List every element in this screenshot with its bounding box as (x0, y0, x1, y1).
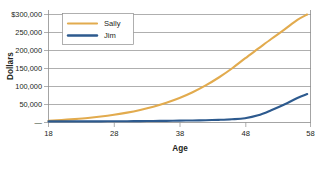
chart-canvas: $300,000 250,000 200,000 150,000 100,000… (0, 0, 325, 170)
y-tick-label-zero: — (35, 118, 43, 127)
y-tick-label-200000: 200,000 (15, 46, 42, 55)
y-tick-label-100000: 100,000 (15, 82, 42, 91)
y-tick-label-50000: 50,000 (19, 100, 42, 109)
x-tick-label-28: 28 (110, 129, 118, 138)
y-axis-title: Dollars (6, 52, 15, 80)
y-tick-label-300000: $300,000 (11, 10, 42, 19)
x-tick-label-18: 18 (44, 129, 52, 138)
legend-label-sally: Sally (104, 19, 121, 28)
x-axis-title: Age (172, 144, 188, 153)
x-tick-label-48: 48 (242, 129, 250, 138)
x-tick-label-58: 58 (306, 129, 314, 138)
legend-label-jim: Jim (104, 31, 116, 40)
line-chart: $300,000 250,000 200,000 150,000 100,000… (0, 0, 325, 170)
y-tickmarks (44, 15, 48, 123)
x-tickmarks (49, 123, 311, 128)
legend-box (63, 14, 134, 45)
x-tick-label-38: 38 (176, 129, 184, 138)
chart-legend: Sally Jim (63, 14, 134, 45)
y-tick-label-250000: 250,000 (15, 28, 42, 37)
y-tick-label-150000: 150,000 (15, 64, 42, 73)
